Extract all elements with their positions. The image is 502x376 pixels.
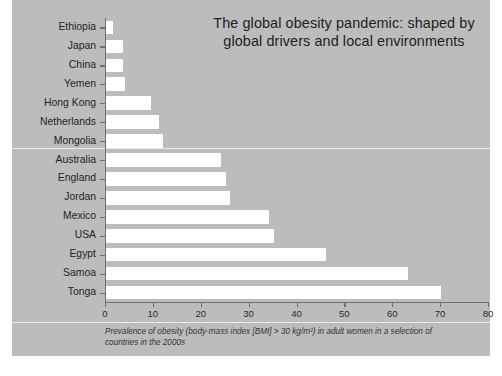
bar bbox=[106, 21, 113, 35]
x-axis-tick-label: 60 bbox=[387, 308, 398, 319]
y-axis-tick bbox=[100, 236, 105, 237]
bar-row: Australia bbox=[0, 151, 502, 170]
x-axis-tick-label: 10 bbox=[148, 308, 159, 319]
bar-row: Japan bbox=[0, 37, 502, 56]
bar-row: China bbox=[0, 56, 502, 75]
y-axis-tick bbox=[100, 141, 105, 142]
bar-row: Egypt bbox=[0, 245, 502, 264]
bar bbox=[106, 267, 408, 281]
x-axis-tick-label: 70 bbox=[435, 308, 446, 319]
y-axis-label: England bbox=[9, 169, 105, 188]
bar bbox=[106, 40, 123, 54]
x-axis-tick bbox=[488, 302, 489, 307]
bar bbox=[106, 172, 226, 186]
bar bbox=[106, 248, 326, 262]
x-axis-tick bbox=[249, 302, 250, 307]
y-axis-label: USA bbox=[9, 226, 105, 245]
y-axis-label: Australia bbox=[9, 151, 105, 170]
y-axis-label: Mongolia bbox=[9, 132, 105, 151]
y-axis-label: Hong Kong bbox=[9, 94, 105, 113]
bar-row: Jordan bbox=[0, 188, 502, 207]
bar-row: Mexico bbox=[0, 207, 502, 226]
y-axis-label: Samoa bbox=[9, 264, 105, 283]
y-axis-tick bbox=[100, 274, 105, 275]
bar bbox=[106, 210, 269, 224]
x-axis-tick bbox=[344, 302, 345, 307]
x-axis-tick bbox=[105, 302, 106, 307]
y-axis-tick bbox=[100, 122, 105, 123]
bar-row: Ethiopia bbox=[0, 18, 502, 37]
y-axis-tick bbox=[100, 27, 105, 28]
y-axis-tick bbox=[100, 84, 105, 85]
figure-page: The global obesity pandemic: shaped by g… bbox=[0, 0, 502, 376]
figure-caption: Prevalence of obesity (body-mass index [… bbox=[105, 327, 455, 348]
bar bbox=[106, 153, 221, 167]
y-axis-tick bbox=[100, 293, 105, 294]
bar bbox=[106, 229, 274, 243]
x-axis-tick-label: 0 bbox=[102, 308, 107, 319]
y-axis-label: Yemen bbox=[9, 75, 105, 94]
bar-row: Tonga bbox=[0, 283, 502, 302]
bar-chart: EthiopiaJapanChinaYemenHong KongNetherla… bbox=[0, 0, 502, 356]
y-axis-tick bbox=[100, 160, 105, 161]
y-axis-label: China bbox=[9, 56, 105, 75]
y-axis-tick bbox=[100, 179, 105, 180]
x-axis-tick bbox=[440, 302, 441, 307]
y-axis-tick bbox=[100, 65, 105, 66]
y-axis-label: Netherlands bbox=[9, 113, 105, 132]
y-axis-label: Ethiopia bbox=[9, 18, 105, 37]
x-axis-tick-label: 50 bbox=[339, 308, 350, 319]
bar bbox=[106, 59, 123, 73]
y-axis-label: Tonga bbox=[9, 283, 105, 302]
bar-row: USA bbox=[0, 226, 502, 245]
bar bbox=[106, 96, 151, 110]
y-axis-tick bbox=[100, 198, 105, 199]
x-axis-tick bbox=[392, 302, 393, 307]
bar-row: England bbox=[0, 169, 502, 188]
bar-row: Samoa bbox=[0, 264, 502, 283]
bar-row: Netherlands bbox=[0, 113, 502, 132]
y-axis-tick bbox=[100, 103, 105, 104]
x-axis-tick-label: 80 bbox=[483, 308, 494, 319]
bar bbox=[106, 286, 441, 300]
y-axis-label: Mexico bbox=[9, 207, 105, 226]
bar bbox=[106, 77, 125, 91]
bar bbox=[106, 191, 230, 205]
x-axis-tick-label: 20 bbox=[195, 308, 206, 319]
y-axis-label: Egypt bbox=[9, 245, 105, 264]
bar-row: Mongolia bbox=[0, 132, 502, 151]
x-axis-tick-label: 30 bbox=[243, 308, 254, 319]
x-axis-tick bbox=[153, 302, 154, 307]
x-axis-tick bbox=[297, 302, 298, 307]
y-axis-tick bbox=[100, 46, 105, 47]
y-axis-label: Japan bbox=[9, 37, 105, 56]
caption-line-1: Prevalence of obesity (body-mass index [… bbox=[105, 327, 423, 336]
y-axis-tick bbox=[100, 255, 105, 256]
y-axis-tick bbox=[100, 217, 105, 218]
bar bbox=[106, 115, 159, 129]
x-axis-tick-label: 40 bbox=[291, 308, 302, 319]
y-axis-label: Jordan bbox=[9, 188, 105, 207]
bar-row: Hong Kong bbox=[0, 94, 502, 113]
bar bbox=[106, 134, 163, 148]
x-axis-tick bbox=[201, 302, 202, 307]
bar-row: Yemen bbox=[0, 75, 502, 94]
